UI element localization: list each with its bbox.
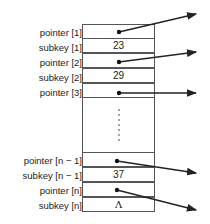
pointer-arrows (0, 0, 210, 224)
vertical-ellipsis-icon (118, 109, 120, 141)
